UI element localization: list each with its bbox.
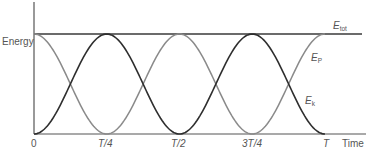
x-tick-0: 0 bbox=[31, 139, 37, 149]
energy-diagram bbox=[0, 0, 374, 159]
e-p-label: EP bbox=[311, 53, 322, 63]
e-p-curve bbox=[34, 34, 325, 134]
y-axis-label: Energy bbox=[2, 37, 34, 47]
e-k-curve bbox=[34, 34, 325, 134]
x-tick-t2: T/2 bbox=[171, 139, 185, 149]
e-k-label: Ek bbox=[305, 96, 315, 106]
x-tick-t4: T/4 bbox=[98, 139, 112, 149]
x-tick-3t4: 3T/4 bbox=[242, 139, 262, 149]
e-tot-label: Etot bbox=[333, 21, 347, 31]
x-tick-t: T bbox=[323, 139, 329, 149]
x-axis-label: Time bbox=[342, 139, 364, 149]
